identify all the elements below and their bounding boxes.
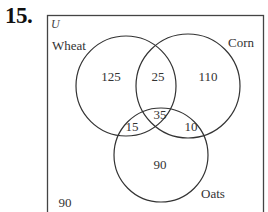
venn-diagram: U Wheat Corn Oats 125 25 110 35 15 10 90… [0,0,268,212]
corn-label: Corn [228,35,255,50]
region-wheat-only: 125 [101,69,121,84]
region-wheat-corn: 25 [152,69,165,84]
region-corn-only: 110 [198,69,217,84]
region-all-three: 35 [154,107,167,122]
region-oats-only: 90 [154,157,167,172]
region-outside: 90 [59,195,72,210]
universe-label: U [51,17,61,31]
region-wheat-oats: 15 [126,119,139,134]
oats-label: Oats [201,186,225,201]
wheat-label: Wheat [52,38,86,53]
region-corn-oats: 10 [185,119,198,134]
